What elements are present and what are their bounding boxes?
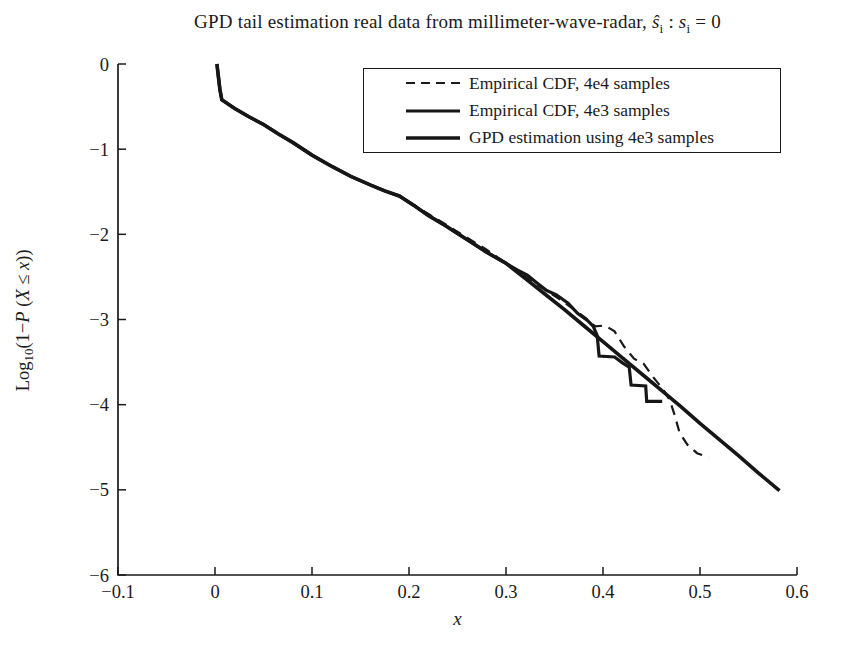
ylabel-paren: ( [13, 300, 33, 311]
legend-swatch-dashed [404, 75, 462, 91]
y-tick-label: −2 [89, 225, 109, 245]
y-tick-label: −1 [89, 140, 109, 160]
x-tick-label: 0.1 [300, 582, 323, 602]
x-tick-label: 0.4 [591, 582, 614, 602]
ylabel-close: )) [13, 249, 33, 261]
legend-label: Empirical CDF, 4e3 samples [469, 100, 670, 121]
x-tick-label: 0 [210, 582, 219, 602]
title-equals-zero: = 0 [690, 11, 721, 32]
title-colon: : [663, 11, 678, 32]
ylabel-open: (1− [13, 322, 33, 348]
legend-item-empirical-cdf-4e4: Empirical CDF, 4e4 samples [404, 70, 780, 96]
x-axis-label: x [118, 608, 797, 630]
chart-title: GPD tail estimation real data from milli… [118, 11, 797, 37]
y-tick-label: −6 [89, 566, 109, 586]
y-tick-label: 0 [100, 55, 109, 75]
y-tick-label: −3 [89, 310, 109, 330]
ylabel-X: X [13, 289, 33, 300]
legend-label: GPD estimation using 4e3 samples [469, 127, 714, 148]
title-text: GPD tail estimation real data from milli… [194, 11, 652, 32]
y-tick-label: −5 [89, 480, 109, 500]
series-empirical-cdf-4e4 [409, 202, 709, 458]
x-tick-label: 0.2 [397, 582, 420, 602]
ylabel-leq: ≤ [13, 270, 33, 289]
legend-swatch-solid [404, 130, 462, 146]
y-tick-label: −4 [89, 395, 109, 415]
ylabel-P: P [13, 311, 33, 322]
legend-item-gpd-estimation: GPD estimation using 4e3 samples [404, 125, 780, 151]
x-tick-label: 0.5 [688, 582, 711, 602]
x-tick-label: 0.6 [785, 582, 808, 602]
ylabel-sub-10: 10 [21, 348, 36, 361]
ylabel-x: x [13, 261, 33, 269]
x-tick-label: 0.3 [494, 582, 517, 602]
legend: Empirical CDF, 4e4 samplesEmpirical CDF,… [363, 68, 781, 153]
legend-swatch-solid [404, 103, 462, 119]
figure: −0.100.10.20.30.40.50.60−1−2−3−4−5−6 GPD… [0, 0, 842, 659]
y-axis-label: Log10(1−P (X ≤ x)) [4, 0, 46, 640]
legend-item-empirical-cdf-4e3: Empirical CDF, 4e3 samples [404, 98, 780, 124]
legend-label: Empirical CDF, 4e4 samples [469, 73, 670, 94]
title-s-hat: ŝ [652, 11, 660, 32]
ylabel-log: Log [13, 361, 33, 391]
